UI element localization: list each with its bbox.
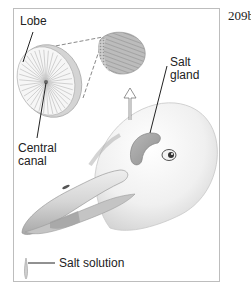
bird-head <box>90 103 217 231</box>
label-lobe: Lobe <box>20 15 47 28</box>
nostril <box>62 184 70 190</box>
dashed-connector-top <box>50 37 103 47</box>
eye <box>162 150 176 161</box>
lobe-cross-section <box>98 32 145 74</box>
label-salt-solution: Salt solution <box>59 257 124 270</box>
label-salt-gland-line2: gland <box>170 69 199 82</box>
dashed-connector-bottom <box>83 48 100 98</box>
label-central-canal-line2: canal <box>18 155 47 168</box>
lobe-disc <box>8 36 92 127</box>
salt-solution-drop <box>25 258 28 279</box>
